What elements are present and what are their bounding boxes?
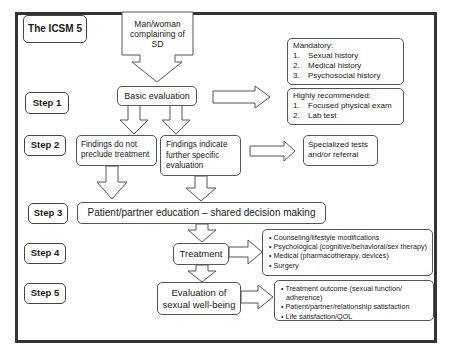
arrow-down-5	[188, 265, 216, 282]
findings-indicate-node[interactable]: Findings indicate further specific evalu…	[160, 135, 241, 176]
arrow-right-4	[229, 240, 262, 264]
arrow-right-5	[241, 285, 273, 309]
step-1-label: Step 1	[25, 92, 69, 114]
list-item: Treatment outcome (sexual function/ adhe…	[279, 284, 429, 302]
step-4-label: Step 4	[24, 243, 66, 264]
treatment-options-list: Counseling/lifestyle modifications Psych…	[267, 233, 428, 270]
list-item: Medical (pharmacotherapy, devices)	[267, 251, 428, 260]
mandatory-list: 1.Sexual history 2.Medical history 3.Psy…	[293, 51, 398, 81]
list-item: 2.Medical history	[293, 61, 398, 71]
list-item: 1.Sexual history	[293, 51, 398, 61]
list-item: 2.Lab test	[293, 111, 398, 121]
list-item: Patient/partner/relationship satisfactio…	[279, 302, 429, 311]
start-node[interactable]: Man/woman complaining of SD	[122, 12, 193, 55]
findings-not-preclude-node[interactable]: Findings do not preclude treatment	[76, 135, 157, 166]
specialized-tests-node[interactable]: Specialized tests and/or referral	[303, 135, 378, 166]
mandatory-heading: Mandatory:	[293, 41, 398, 51]
evaluation-outcomes-box: Treatment outcome (sexual function/ adhe…	[274, 280, 434, 321]
title-label: The ICSM 5	[23, 15, 87, 43]
arrow-down-3a	[97, 166, 127, 199]
evaluation-node[interactable]: Evaluation of sexual well-being	[157, 282, 241, 315]
recommended-box: Highly recommended: 1.Focused physical e…	[287, 88, 404, 125]
arrow-down-4	[188, 224, 216, 242]
arrow-right-1	[213, 86, 270, 108]
step-2-label: Step 2	[24, 135, 66, 156]
list-item: 3.Psychosocial history	[293, 71, 398, 81]
arrow-down-3b	[186, 176, 216, 201]
evaluation-outcomes-list: Treatment outcome (sexual function/ adhe…	[279, 284, 429, 321]
list-item: Life satisfaction/QOL	[279, 312, 429, 321]
basic-evaluation-node[interactable]: Basic evaluation	[117, 86, 197, 106]
list-item: Psychological (cognitive/behavioral/sex …	[267, 242, 428, 251]
list-item: Counseling/lifestyle modifications	[267, 233, 428, 242]
step-5-label: Step 5	[24, 283, 66, 304]
list-item: 1.Focused physical exam	[293, 101, 398, 111]
treatment-options-box: Counseling/lifestyle modifications Psych…	[262, 229, 433, 276]
arrow-right-2	[250, 141, 295, 161]
arrow-down-2b	[162, 105, 190, 134]
step-3-label: Step 3	[28, 203, 68, 224]
recommended-heading: Highly recommended:	[293, 91, 398, 101]
recommended-list: 1.Focused physical exam 2.Lab test	[293, 101, 398, 121]
treatment-node[interactable]: Treatment	[173, 243, 229, 265]
list-item: Surgery	[267, 261, 428, 270]
mandatory-box: Mandatory: 1.Sexual history 2.Medical hi…	[287, 38, 404, 85]
education-node[interactable]: Patient/partner education – shared decis…	[77, 202, 326, 224]
arrow-down-2a	[120, 105, 148, 134]
